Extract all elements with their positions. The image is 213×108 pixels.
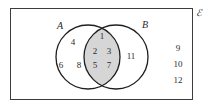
element-intersection-1: 1 [97, 32, 107, 41]
universal-set-symbol: ℰ [196, 9, 202, 19]
element-a-only-3: 8 [74, 61, 84, 70]
element-intersection-5: 7 [104, 61, 114, 70]
element-outside-3: 12 [168, 76, 188, 85]
set-b-label: B [142, 20, 148, 30]
element-intersection-3: 3 [104, 47, 114, 56]
element-a-only-2: 6 [56, 61, 66, 70]
venn-diagram-figure: A B ℰ 4 6 8 1 2 3 5 7 11 9 10 12 [0, 0, 213, 108]
element-outside-2: 10 [168, 60, 188, 69]
element-b-only-1: 11 [124, 52, 138, 61]
element-intersection-4: 5 [90, 61, 100, 70]
set-a-label: A [57, 21, 63, 31]
outside-elements-list: 9 10 12 [168, 44, 188, 92]
element-intersection-2: 2 [90, 47, 100, 56]
element-outside-1: 9 [168, 44, 188, 53]
element-a-only-1: 4 [68, 38, 78, 47]
